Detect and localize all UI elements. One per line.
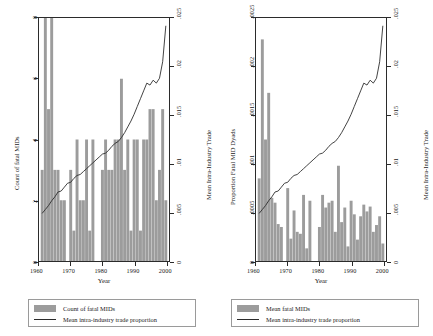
- y-tick-right: [170, 213, 174, 214]
- plot-area-left: [38, 17, 170, 262]
- y2-axis-title-left: Mean Intra-Industry Trade: [205, 130, 212, 200]
- y-tick-right: [387, 262, 391, 263]
- y-tick-right: [387, 115, 391, 116]
- y-tick-label-right: .02: [393, 60, 399, 68]
- legend-right: Mean fatal MIDs Mean intra-industry trad…: [231, 299, 419, 327]
- x-tick: [38, 262, 39, 266]
- x-tick-label: 1980: [311, 268, 324, 274]
- x-tick-label: 1970: [279, 268, 292, 274]
- x-tick-label: 1970: [62, 268, 75, 274]
- x-axis-title-right: Year: [255, 277, 387, 284]
- x-tick: [102, 262, 103, 266]
- x-tick-label: 2000: [376, 268, 389, 274]
- legend-item: Mean intra-industry trade proportion: [237, 314, 413, 325]
- y-tick-label-left: 2: [32, 200, 38, 203]
- y-tick-right: [170, 262, 174, 263]
- y-axis-title-right: Proportion Fatal MID Dyads: [229, 129, 236, 205]
- y-tick-right: [170, 66, 174, 67]
- x-tick: [352, 262, 353, 266]
- y-tick-right: [387, 66, 391, 67]
- chart-panel-left: 024680.005.01.015.02.0251960197019801990…: [0, 0, 216, 336]
- y-axis-title-left: Count of fatal MIDs: [13, 136, 20, 190]
- legend-label: Count of fatal MIDs: [63, 305, 115, 312]
- legend-item: Count of fatal MIDs: [34, 303, 190, 314]
- y-tick-right: [387, 164, 391, 165]
- x-tick-label: 1960: [30, 268, 43, 274]
- y-tick-label-left: 4: [32, 138, 38, 141]
- legend-label: Mean intra-industry trade proportion: [63, 316, 157, 323]
- x-axis-title-left: Year: [38, 277, 170, 284]
- y-tick-label-right: .005: [393, 204, 399, 215]
- y-tick-label-right: .005: [176, 204, 182, 215]
- x-tick: [167, 262, 168, 266]
- x-tick-label: 1990: [127, 268, 140, 274]
- x-tick-label: 1980: [94, 268, 107, 274]
- legend-item: Mean fatal MIDs: [237, 303, 413, 314]
- y-tick-right: [387, 213, 391, 214]
- y-tick-label-left: 6: [32, 77, 38, 80]
- y-tick-label-left: .001: [249, 155, 255, 166]
- x-tick: [70, 262, 71, 266]
- y-tick-label-right: .015: [393, 106, 399, 117]
- y-tick-label-left: .0005: [249, 201, 255, 215]
- line-swatch-icon: [237, 316, 259, 323]
- legend-left: Count of fatal MIDs Mean intra-industry …: [28, 299, 196, 327]
- y-tick-right: [170, 164, 174, 165]
- x-tick: [384, 262, 385, 266]
- chart-panel-right: 0.0005.001.0015.002.00250.005.01.015.02.…: [217, 0, 433, 336]
- y-tick-right: [387, 17, 391, 18]
- y-tick-label-left: .0025: [249, 5, 255, 19]
- series-canvas-right: [256, 18, 386, 261]
- bar-swatch-icon: [34, 305, 56, 312]
- legend-label: Mean intra-industry trade proportion: [266, 316, 360, 323]
- figure-root: 024680.005.01.015.02.0251960197019801990…: [0, 0, 433, 336]
- x-tick: [135, 262, 136, 266]
- y-tick-label-left: .002: [249, 57, 255, 68]
- y-tick-label-left: .0015: [249, 103, 255, 117]
- legend-label: Mean fatal MIDs: [266, 305, 310, 312]
- line-swatch-icon: [34, 316, 56, 323]
- y-tick-label-right: .025: [176, 8, 182, 19]
- y-tick-right: [170, 115, 174, 116]
- y-tick-label-right: .01: [393, 158, 399, 166]
- bar-swatch-icon: [237, 305, 259, 312]
- x-tick: [255, 262, 256, 266]
- y-tick-label-right: .025: [393, 8, 399, 19]
- x-tick-label: 2000: [159, 268, 172, 274]
- y2-axis-title-right: Mean Intra-Industry Trade: [422, 130, 429, 200]
- plot-area-right: [255, 17, 387, 262]
- y-tick-label-left: 8: [32, 16, 38, 19]
- x-tick: [319, 262, 320, 266]
- x-tick-label: 1990: [344, 268, 357, 274]
- series-canvas-left: [39, 18, 169, 261]
- y-tick-label-right: .015: [176, 106, 182, 117]
- y-tick-right: [170, 17, 174, 18]
- y-tick-label-right: .01: [176, 158, 182, 166]
- x-tick: [287, 262, 288, 266]
- x-tick-label: 1960: [247, 268, 260, 274]
- y-tick-label-right: .02: [176, 60, 182, 68]
- legend-item: Mean intra-industry trade proportion: [34, 314, 190, 325]
- y-tick-label-right: 0: [393, 261, 399, 264]
- y-tick-label-right: 0: [176, 261, 182, 264]
